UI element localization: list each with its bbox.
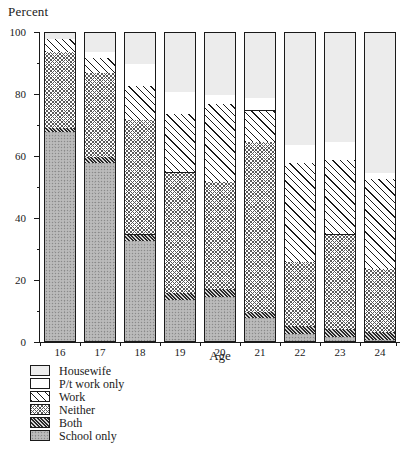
x-axis-title: Age (40, 348, 400, 364)
bar-segment-pt (85, 51, 115, 58)
bar-segment-housewife (125, 32, 155, 64)
legend-item-school[interactable]: School only (30, 429, 124, 442)
x-tick (240, 342, 241, 346)
bar-segment-housewife (325, 32, 355, 142)
legend-label-both: Both (59, 417, 82, 429)
bar-segment-housewife (205, 32, 235, 95)
bar-segment-school (245, 317, 275, 342)
bar-segment-pt (125, 63, 155, 86)
bar-segment-school (165, 299, 195, 342)
bar-age-23[interactable] (324, 32, 356, 342)
bar-age-20[interactable] (204, 32, 236, 342)
legend-swatch-school (30, 430, 50, 441)
bar-segment-pt (325, 141, 355, 161)
bar-segment-pt (365, 172, 395, 179)
legend-item-work[interactable]: Work (30, 390, 124, 403)
y-tick-major: 80 (34, 94, 40, 95)
bar-segment-neither (205, 181, 235, 289)
bar-segment-both (165, 292, 195, 299)
y-tick-major: 40 (34, 218, 40, 219)
bar-age-18[interactable] (124, 32, 156, 342)
y-tick-label: 100 (10, 27, 27, 38)
legend-swatch-both (30, 417, 50, 428)
bar-segment-pt (245, 97, 275, 110)
legend-item-pt[interactable]: P/t work only (30, 377, 124, 390)
bar-segment-both (285, 325, 315, 334)
bar-segment-neither (325, 234, 355, 330)
x-axis-line (39, 342, 400, 343)
bar-segment-neither (165, 172, 195, 294)
bar-age-17[interactable] (84, 32, 116, 342)
legend-swatch-housewife (30, 365, 50, 376)
y-tick-major: 20 (34, 280, 40, 281)
bar-segment-work (45, 38, 75, 51)
bar-segment-housewife (365, 32, 395, 173)
bar-segment-both (205, 288, 235, 297)
y-tick-label: 20 (15, 275, 26, 286)
bar-segment-neither (85, 72, 115, 157)
bar-segment-both (125, 234, 155, 241)
legend-label-housewife: Housewife (59, 365, 111, 377)
bar-segment-work (285, 162, 315, 262)
bar-segment-work (325, 159, 355, 234)
bar-segment-neither (245, 141, 275, 313)
legend-swatch-neither (30, 404, 50, 415)
legend-swatch-work (30, 391, 50, 402)
y-tick-major: 60 (34, 156, 40, 157)
bar-segment-work (365, 178, 395, 269)
x-tick (396, 342, 397, 346)
legend-label-pt: P/t work only (59, 378, 124, 390)
x-tick (200, 342, 201, 346)
stacked-bar-chart: Percent 020406080100 161718192021222324 … (0, 0, 420, 453)
x-tick (120, 342, 121, 346)
bar-age-21[interactable] (244, 32, 276, 342)
bar-segment-neither (45, 51, 75, 128)
bar-age-19[interactable] (164, 32, 196, 342)
bar-segment-work (245, 110, 275, 142)
bar-segment-housewife (85, 32, 115, 52)
legend-label-work: Work (59, 391, 85, 403)
legend-swatch-pt (30, 378, 50, 389)
bar-segment-pt (165, 91, 195, 114)
bar-segment-school (285, 333, 315, 342)
legend-label-school: School only (59, 430, 117, 442)
x-tick (40, 342, 41, 346)
legend-item-both[interactable]: Both (30, 416, 124, 429)
bar-segment-housewife (45, 32, 75, 39)
bar-segment-both (245, 311, 275, 318)
y-tick-minor (37, 311, 40, 312)
bar-age-22[interactable] (284, 32, 316, 342)
bar-segment-school (85, 162, 115, 342)
y-tick-minor (37, 249, 40, 250)
x-tick (160, 342, 161, 346)
legend: HousewifeP/t work onlyWorkNeitherBothSch… (30, 364, 124, 442)
bar-segment-work (205, 103, 235, 182)
bar-age-24[interactable] (364, 32, 396, 342)
legend-item-housewife[interactable]: Housewife (30, 364, 124, 377)
bar-segment-school (205, 296, 235, 343)
bar-age-16[interactable] (44, 32, 76, 342)
bar-segment-school (125, 240, 155, 342)
x-tick (80, 342, 81, 346)
bar-segment-housewife (245, 32, 275, 98)
legend-item-neither[interactable]: Neither (30, 403, 124, 416)
x-tick (280, 342, 281, 346)
bar-segment-neither (365, 268, 395, 333)
bar-segment-both (325, 328, 355, 337)
y-tick-label: 40 (15, 213, 26, 224)
bar-segment-pt (285, 144, 315, 164)
plot-area: 020406080100 161718192021222324 (40, 32, 400, 342)
bar-segment-work (85, 57, 115, 74)
y-tick-label: 80 (15, 89, 26, 100)
bar-segment-neither (285, 261, 315, 326)
y-tick-minor (37, 187, 40, 188)
bar-segment-both (85, 156, 115, 163)
x-tick (320, 342, 321, 346)
bar-segment-both (365, 331, 395, 340)
bar-segment-work (165, 113, 195, 173)
bar-segment-pt (205, 94, 235, 104)
y-tick-minor (37, 125, 40, 126)
y-axis-title: Percent (8, 4, 48, 20)
bar-segment-housewife (285, 32, 315, 145)
legend-label-neither: Neither (59, 404, 95, 416)
